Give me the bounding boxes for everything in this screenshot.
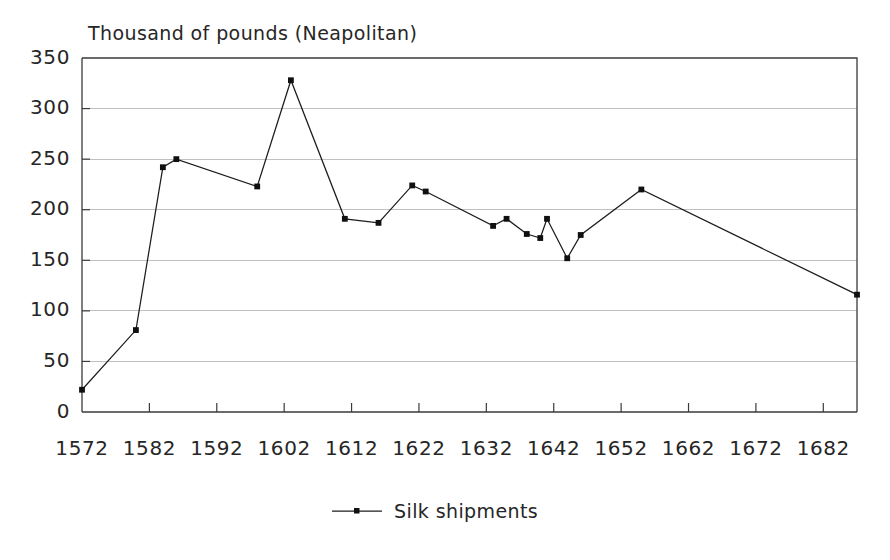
legend-marker-sample: [354, 508, 360, 514]
data-point-1616: [376, 220, 382, 226]
legend-label-silk-shipments: Silk shipments: [394, 500, 538, 522]
y-tick-label-150: 150: [30, 247, 70, 271]
x-tick-label-1642: 1642: [527, 436, 580, 460]
y-tick-label-200: 200: [30, 196, 70, 220]
x-tick-label-1662: 1662: [662, 436, 715, 460]
y-tick-label-0: 0: [57, 399, 70, 423]
data-point-1644: [564, 255, 570, 261]
y-tick-label-350: 350: [30, 45, 70, 69]
chart-background: [0, 0, 890, 560]
line-chart: 050100150200250300350 157215821592160216…: [0, 0, 890, 560]
data-point-1633: [490, 223, 496, 229]
y-tick-label-250: 250: [30, 146, 70, 170]
data-point-1646: [578, 232, 584, 238]
data-point-1584: [160, 164, 166, 170]
data-point-1641: [544, 216, 550, 222]
y-tick-label-300: 300: [30, 95, 70, 119]
data-point-1621: [409, 183, 415, 189]
data-point-1572: [79, 387, 85, 393]
y-tick-label-100: 100: [30, 297, 70, 321]
data-point-1598: [254, 184, 260, 190]
data-point-1640: [537, 235, 543, 241]
x-tick-label-1592: 1592: [190, 436, 243, 460]
x-tick-label-1572: 1572: [55, 436, 108, 460]
figure-container: 050100150200250300350 157215821592160216…: [0, 0, 890, 560]
x-tick-label-1622: 1622: [392, 436, 445, 460]
x-tick-label-1582: 1582: [123, 436, 176, 460]
x-tick-label-1672: 1672: [729, 436, 782, 460]
data-point-1623: [423, 189, 429, 195]
x-tick-label-1652: 1652: [594, 436, 647, 460]
x-tick-label-1682: 1682: [797, 436, 850, 460]
data-point-1611: [342, 216, 348, 222]
data-point-1638: [524, 231, 530, 237]
x-tick-label-1632: 1632: [460, 436, 513, 460]
data-point-1603: [288, 77, 294, 83]
x-tick-label-1612: 1612: [325, 436, 378, 460]
data-point-1635: [504, 216, 510, 222]
data-point-1580: [133, 327, 139, 333]
y-tick-label-50: 50: [43, 348, 70, 372]
data-point-1586: [173, 156, 179, 162]
x-tick-label-1602: 1602: [258, 436, 311, 460]
y-axis-title: Thousand of pounds (Neapolitan): [87, 22, 417, 44]
data-point-1687: [854, 292, 860, 298]
data-point-1655: [638, 187, 644, 193]
